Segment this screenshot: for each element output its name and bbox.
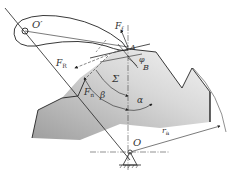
label-b: B [142, 63, 149, 72]
radius-line [130, 126, 220, 152]
label-a: A [129, 43, 136, 52]
label-beta: β [99, 90, 105, 100]
label-ff: Ff [114, 21, 124, 32]
label-alpha: α [137, 95, 143, 105]
label-sigma: Σ [111, 73, 120, 84]
label-ra: ra [162, 126, 170, 136]
label-o: O [133, 137, 141, 148]
label-o-prime: O′ [32, 19, 43, 30]
label-phi: φ [139, 55, 145, 64]
mechanism-diagram: O′ A B φ Ff FR Fn Σ β α O ra [0, 0, 236, 179]
cam-pivot-support [119, 150, 141, 168]
label-fr: FR [55, 58, 67, 69]
